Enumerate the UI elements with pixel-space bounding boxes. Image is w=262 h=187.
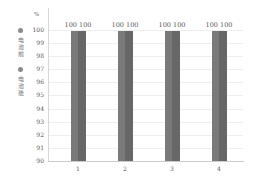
x-tick: 1 — [73, 166, 83, 172]
data-label-pair: 100 100 — [63, 22, 93, 29]
y-axis-line — [48, 8, 49, 162]
x-tick: 4 — [214, 166, 224, 172]
bar-series-2 — [125, 31, 133, 161]
y-tick: 96 — [30, 79, 44, 85]
bar-series-2 — [78, 31, 86, 161]
x-tick: 3 — [167, 166, 177, 172]
y-tick: 90 — [30, 158, 44, 164]
legend-label-series-1: 电池前 — [17, 36, 24, 57]
data-label-pair: 100 100 — [204, 22, 234, 29]
x-tick: 2 — [120, 166, 130, 172]
data-label: 100 — [173, 21, 185, 29]
legend-label-series-2: 电池後 — [17, 75, 24, 96]
y-tick: 97 — [30, 66, 44, 72]
y-tick: 93 — [30, 119, 44, 125]
y-tick: 92 — [30, 132, 44, 138]
data-label: 100 — [126, 21, 138, 29]
data-label-pair: 100 100 — [157, 22, 187, 29]
bar-series-2 — [219, 31, 227, 161]
bar-series-2 — [172, 31, 180, 161]
data-label: 100 — [159, 21, 171, 29]
y-tick: 95 — [30, 92, 44, 98]
y-axis-unit: % — [34, 11, 39, 17]
y-tick: 99 — [30, 40, 44, 46]
y-tick: 94 — [30, 106, 44, 112]
y-tick: 100 — [30, 27, 44, 33]
data-label: 100 — [65, 21, 77, 29]
data-label: 100 — [220, 21, 232, 29]
data-label: 100 — [206, 21, 218, 29]
legend-dot-series-2 — [18, 67, 23, 72]
y-tick: 98 — [30, 53, 44, 59]
legend-dot-series-1 — [18, 28, 23, 33]
data-label: 100 — [79, 21, 91, 29]
x-axis-line — [48, 161, 244, 162]
data-label: 100 — [112, 21, 124, 29]
y-tick: 91 — [30, 145, 44, 151]
data-label-pair: 100 100 — [110, 22, 140, 29]
